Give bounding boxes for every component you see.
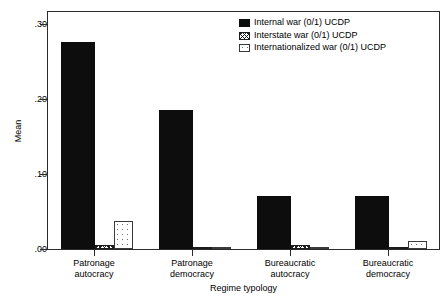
bar-internationalized-war-bureaucratic-democracy bbox=[408, 241, 427, 249]
bar-internationalized-war-bureaucratic-autocracy bbox=[310, 247, 329, 249]
x-tick-label-line: democracy bbox=[137, 269, 247, 280]
legend-item-label: Internal war (0/1) UCDP bbox=[254, 17, 435, 29]
bar-interstate-war-bureaucratic-democracy bbox=[389, 247, 408, 249]
y-axis: .30 .20 .10 .00 bbox=[0, 0, 47, 302]
bar-interstate-war-patronage-autocracy bbox=[95, 245, 114, 249]
x-axis-label: Regime typology bbox=[47, 283, 440, 293]
x-tick-label-line: democracy bbox=[333, 269, 443, 280]
x-tick-label-bureaucratic-autocracy: Bureaucratic autocracy bbox=[235, 258, 345, 280]
y-tick-mark bbox=[40, 249, 47, 250]
x-tick-label-line: Patronage bbox=[137, 258, 247, 269]
legend-item: Internationalized war (0/1) UCDP bbox=[239, 42, 435, 54]
x-tick-label-line: Bureaucratic bbox=[235, 258, 345, 269]
x-tick-label-line: autocracy bbox=[235, 269, 345, 280]
legend: Internal war (0/1) UCDP Interstate war (… bbox=[239, 17, 435, 55]
x-tick-mark bbox=[94, 250, 95, 256]
x-tick-label-patronage-autocracy: Patronage autocracy bbox=[39, 258, 149, 280]
x-tick-label-line: Bureaucratic bbox=[333, 258, 443, 269]
bar-chart: Mean .30 .20 .10 .00 Interna bbox=[0, 0, 445, 302]
x-tick-label-patronage-democracy: Patronage democracy bbox=[137, 258, 247, 280]
legend-item-label: Interstate war (0/1) UCDP bbox=[254, 30, 435, 42]
x-tick-label-line: autocracy bbox=[39, 269, 149, 280]
bar-internationalized-war-patronage-autocracy bbox=[114, 221, 133, 249]
legend-item-label: Internationalized war (0/1) UCDP bbox=[254, 42, 435, 54]
bar-internal-war-bureaucratic-autocracy bbox=[257, 196, 291, 249]
dotted-swatch-icon bbox=[239, 44, 250, 52]
bar-internal-war-patronage-autocracy bbox=[61, 42, 95, 249]
x-tick-mark bbox=[192, 250, 193, 256]
bar-interstate-war-bureaucratic-autocracy bbox=[291, 245, 310, 249]
x-tick-label-bureaucratic-democracy: Bureaucratic democracy bbox=[333, 258, 443, 280]
solid-black-swatch-icon bbox=[239, 19, 250, 27]
bar-interstate-war-patronage-democracy bbox=[193, 247, 212, 249]
cross-hatch-swatch-icon bbox=[239, 32, 250, 40]
x-tick-label-line: Patronage bbox=[39, 258, 149, 269]
bar-internationalized-war-patronage-democracy bbox=[212, 247, 231, 249]
legend-item: Interstate war (0/1) UCDP bbox=[239, 30, 435, 42]
bar-internal-war-bureaucratic-democracy bbox=[355, 196, 389, 249]
bar-internal-war-patronage-democracy bbox=[159, 110, 193, 249]
legend-item: Internal war (0/1) UCDP bbox=[239, 17, 435, 29]
y-tick-mark bbox=[40, 24, 47, 25]
x-tick-mark bbox=[388, 250, 389, 256]
x-tick-mark bbox=[290, 250, 291, 256]
plot-area: Internal war (0/1) UCDP Interstate war (… bbox=[47, 11, 440, 250]
y-tick-mark bbox=[40, 99, 47, 100]
y-tick-mark bbox=[40, 174, 47, 175]
